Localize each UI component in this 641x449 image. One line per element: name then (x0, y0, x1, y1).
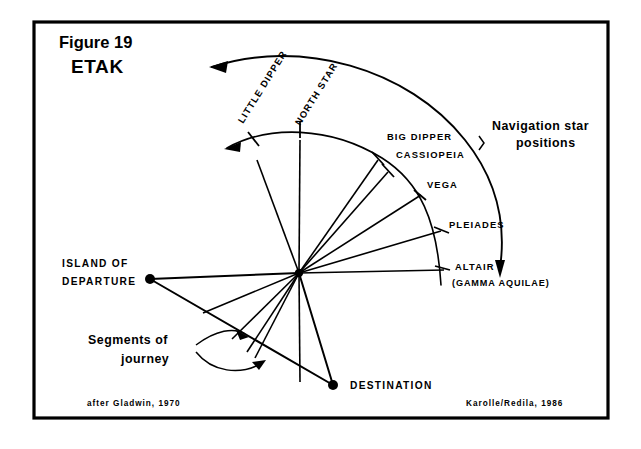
source-note: after Gladwin, 1970 (87, 399, 181, 408)
island-of-departure-label-line1: ISLAND OF (62, 258, 129, 269)
navigation-callout-line1: Navigation star (492, 119, 589, 133)
star-label-vega: VEGA (427, 179, 458, 190)
star-label-big-dipper: BIG DIPPER (387, 131, 452, 142)
island-of-departure-label-line2: DEPARTURE (62, 276, 136, 287)
star-label-pleiades: PLEIADES (449, 219, 505, 230)
star-ray-north-star (299, 140, 300, 273)
destination-label: DESTINATION (350, 380, 433, 391)
star-label-cassiopeia: CASSIOPEIA (396, 149, 465, 160)
credit-note: Karolle/Redila, 1986 (466, 399, 563, 408)
figure-container: Figure 19 ETAK (0, 0, 641, 449)
segments-callout-line1: Segments of (88, 333, 168, 347)
figure-number: Figure 19 (59, 33, 132, 51)
bearing-line-lower-vertical (299, 273, 300, 382)
star-label-altair: ALTAIR (455, 261, 495, 272)
etak-diagram-svg: Figure 19 ETAK (0, 0, 641, 449)
navigation-callout-line2: positions (516, 136, 576, 150)
island-of-departure-node-dot (145, 274, 155, 284)
star-label-gamma-aquilae: (GAMMA AQUILAE) (452, 278, 550, 288)
destination-node-dot (328, 380, 338, 390)
hub-node-dot (295, 269, 303, 277)
figure-title: ETAK (71, 56, 124, 77)
segments-callout-line2: journey (120, 352, 169, 366)
